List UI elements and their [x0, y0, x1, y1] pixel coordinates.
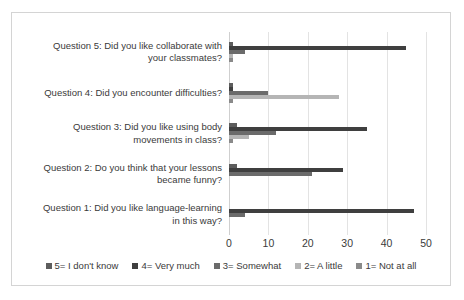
x-tick-label: 50 — [420, 237, 432, 249]
legend-item[interactable]: 5= I don't know — [46, 260, 119, 271]
bar — [229, 172, 312, 176]
legend-swatch-icon — [46, 263, 52, 269]
category-label: Question 5: Did you like collaborate wit… — [17, 40, 222, 65]
legend-label: 5= I don't know — [55, 260, 119, 271]
x-tick-label: 20 — [302, 237, 314, 249]
legend-item[interactable]: 1= Not at all — [356, 260, 416, 271]
plot-area — [229, 32, 426, 235]
x-tick-label: 0 — [226, 237, 232, 249]
legend-label: 3= Somewhat — [223, 260, 281, 271]
bar — [229, 99, 233, 103]
bar — [229, 58, 233, 62]
bar — [229, 95, 339, 99]
legend-swatch-icon — [132, 263, 138, 269]
bar-group — [229, 194, 426, 235]
bar — [229, 209, 414, 213]
bar-group — [229, 113, 426, 154]
gridline — [426, 32, 427, 235]
bar — [229, 46, 406, 50]
legend-swatch-icon — [295, 263, 301, 269]
chart-container: Question 5: Did you like collaborate wit… — [11, 12, 451, 286]
legend-swatch-icon — [214, 263, 220, 269]
legend-item[interactable]: 2= A little — [295, 260, 342, 271]
category-label: Question 2: Do you think that your lesso… — [17, 162, 222, 187]
bar — [229, 139, 233, 143]
legend-label: 1= Not at all — [365, 260, 416, 271]
category-label: Question 4: Did you encounter difficulti… — [17, 87, 222, 100]
category-label: Question 3: Did you like using body move… — [17, 121, 222, 146]
bar — [229, 213, 245, 217]
legend-swatch-icon — [356, 263, 362, 269]
x-tick-label: 30 — [341, 237, 353, 249]
bar-group — [229, 73, 426, 114]
legend-label: 4= Very much — [141, 260, 199, 271]
x-tick-label: 10 — [263, 237, 275, 249]
bar-group — [229, 32, 426, 73]
chart-legend: 5= I don't know4= Very much3= Somewhat2=… — [12, 260, 450, 271]
x-tick-label: 40 — [381, 237, 393, 249]
x-axis: 01020304050 — [229, 237, 426, 253]
legend-item[interactable]: 3= Somewhat — [214, 260, 281, 271]
bar-group — [229, 154, 426, 195]
category-label: Question 1: Did you like language-learni… — [17, 202, 222, 227]
legend-label: 2= A little — [304, 260, 342, 271]
legend-item[interactable]: 4= Very much — [132, 260, 199, 271]
